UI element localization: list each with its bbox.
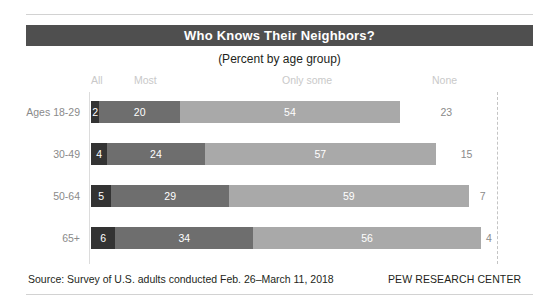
row-category-label: 65+ [0,227,80,249]
row-category-label: 30-49 [0,143,80,165]
stacked-bar: 529597 [91,185,497,207]
legend-item-most: Most [134,75,157,86]
chart-subtitle: (Percent by age group) [26,53,533,65]
legend-item-only-some: Only some [282,75,332,86]
bar-segment-none: 7 [469,185,497,207]
bar-segment-most: 20 [99,101,180,123]
chart-row: 30-494245715 [0,143,559,165]
bar-segment-most: 34 [115,227,253,249]
source-note: Source: Survey of U.S. adults conducted … [28,274,334,285]
chart-legend: AllMostOnly someNone [0,75,559,89]
legend-item-none: None [432,75,457,86]
bar-segment-most: 24 [107,143,204,165]
bottom-divider [26,294,533,295]
bar-segment-only-some: 56 [253,227,480,249]
stacked-bar: 2205423 [91,101,497,123]
row-category-label: 50-64 [0,185,80,207]
row-category-label: Ages 18-29 [0,101,80,123]
legend-item-all: All [91,75,103,86]
brand-label: PEW RESEARCH CENTER [388,274,521,285]
bar-segment-most: 29 [111,185,229,207]
bar-segment-all: 2 [91,101,99,123]
bar-segment-all: 5 [91,185,111,207]
bar-segment-all: 6 [91,227,115,249]
stacked-bar: 4245715 [91,143,497,165]
chart-row: 65+634564 [0,227,559,249]
bar-segment-none: 15 [436,143,497,165]
chart-title-bar: Who Knows Their Neighbors? [26,25,533,46]
bar-segment-none: 23 [400,101,493,123]
chart-row: Ages 18-292205423 [0,101,559,123]
page-title: Who Knows Their Neighbors? [184,29,375,42]
bar-segment-only-some: 59 [229,185,469,207]
chart-row: 50-64529597 [0,185,559,207]
bar-segment-only-some: 57 [205,143,436,165]
bar-segment-all: 4 [91,143,107,165]
bar-segment-none: 4 [481,227,497,249]
bar-segment-only-some: 54 [180,101,399,123]
chart-plot-area: Ages 18-29220542330-49424571550-64529597… [0,92,559,264]
stacked-bar: 634564 [91,227,497,249]
top-divider [26,14,533,15]
